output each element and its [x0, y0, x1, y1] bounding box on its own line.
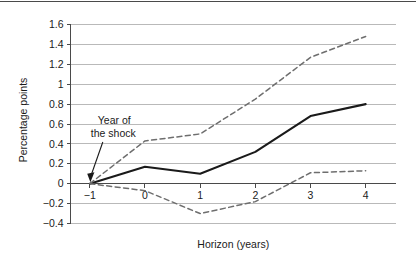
y-tick-label: 1 [58, 78, 64, 90]
x-tick-label: 3 [308, 189, 314, 201]
data-series-group [90, 36, 366, 213]
x-tick-label: −1 [84, 189, 96, 201]
y-tick-label: 0.8 [49, 98, 64, 110]
y-tick-label: 0.2 [49, 157, 64, 169]
series-upper-confidence-band [90, 36, 366, 183]
chart-figure: −0.4−0.200.20.40.60.811.21.41.6 −101234 … [0, 0, 416, 258]
y-tick-label: 1.6 [49, 18, 64, 30]
annotation-line-2: the shock [91, 127, 137, 139]
annotation-arrow-shaft [91, 142, 103, 175]
y-tick-labels-group: −0.4−0.200.20.40.60.811.21.41.6 [43, 18, 64, 229]
x-axis-title: Horizon (years) [197, 238, 269, 250]
y-tick-label: 1.4 [49, 38, 64, 50]
x-tick-label: 4 [363, 189, 369, 201]
impulse-response-chart: −0.4−0.200.20.40.60.811.21.41.6 −101234 … [0, 0, 416, 258]
annotation-line-1: Year of [98, 114, 131, 126]
x-tick-labels-group: −101234 [84, 189, 369, 201]
y-tick-label: 0 [58, 177, 64, 189]
y-axis-title: Percentage points [17, 78, 29, 163]
y-tick-label: 0.4 [49, 138, 64, 150]
y-tick-label: 0.6 [49, 118, 64, 130]
x-tick-label: 1 [197, 189, 203, 201]
x-tick-label: 2 [252, 189, 258, 201]
series-lower-confidence-band [90, 171, 366, 214]
y-tick-marks-group [67, 25, 71, 224]
y-tick-label: 1.2 [49, 58, 64, 70]
y-tick-label: −0.4 [43, 217, 64, 229]
top-rule [0, 1, 416, 2]
y-tick-label: −0.2 [43, 197, 64, 209]
